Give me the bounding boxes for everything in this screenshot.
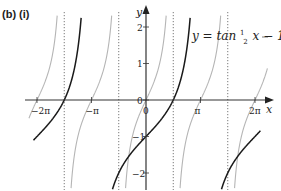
y-tick-label: 2 [137, 23, 143, 33]
curve-branch [112, 18, 190, 189]
x-tick-label: −2π [31, 106, 50, 116]
tan-half-x-minus-one-curves [33, 18, 260, 189]
curve-branch [235, 68, 268, 188]
curve-branch [29, 16, 57, 119]
equation-prefix: y = tan [191, 29, 240, 43]
y-tick-label: −1 [132, 132, 145, 142]
x-axis-label: x [266, 103, 273, 116]
equation-suffix: x − 1 [253, 29, 281, 43]
equation-label: y = tan 1 2 x − 1 [191, 24, 281, 47]
y-tick-label: −2 [132, 169, 145, 179]
y-tick-label: 1 [137, 59, 143, 69]
origin-label: 0 [143, 106, 149, 116]
y-tick-label: 0 [137, 96, 143, 106]
equation-frac-num: 1 [240, 29, 244, 37]
y-axis-arrow-icon [143, 5, 150, 14]
equation-frac-den: 2 [243, 38, 247, 46]
x-tick-label: π [195, 106, 201, 116]
graph-plot: −2π−ππ2π0210−1−2 x y y = tan 1 2 x − 1 [0, 0, 281, 191]
x-tick-label: 2π [249, 106, 261, 116]
y-axis-label: y [135, 6, 143, 19]
x-tick-label: −π [85, 106, 99, 116]
curve-branch [33, 18, 81, 140]
